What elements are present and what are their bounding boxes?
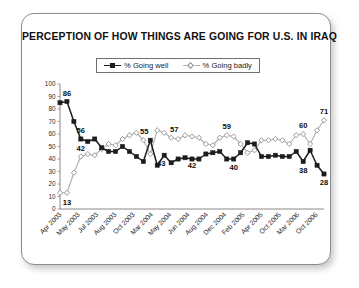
y-tick-label: 100	[45, 80, 56, 87]
data-point	[224, 133, 229, 138]
data-point-label: 57	[170, 125, 178, 134]
y-tick-label: 20	[48, 180, 56, 187]
plot-area: 0102030405060708090100 86565543424038281…	[22, 14, 332, 266]
y-tick-label: 60	[48, 130, 56, 137]
y-tick-label: 90	[48, 93, 56, 100]
data-point	[148, 138, 152, 142]
data-point	[169, 161, 173, 165]
data-point	[280, 154, 284, 158]
data-point-label: 28	[320, 178, 328, 187]
data-point	[107, 149, 111, 153]
y-tick-label: 30	[48, 168, 56, 175]
data-point	[259, 154, 263, 158]
x-tick-labels: Apr 2003May 2003Jul 2003Aug 2003Oct 2003…	[38, 211, 319, 238]
data-point	[72, 119, 76, 123]
data-point	[176, 136, 181, 141]
data-point	[85, 151, 90, 156]
data-point	[225, 157, 229, 161]
data-point-label: 71	[320, 107, 329, 116]
data-point	[211, 151, 215, 155]
data-point-label: 13	[63, 198, 71, 207]
chart-card: PERCEPTION OF HOW THINGS ARE GOING FOR U…	[21, 13, 331, 265]
data-point	[239, 151, 243, 155]
data-point	[308, 148, 312, 152]
data-point	[273, 153, 277, 157]
y-tick-label: 50	[48, 143, 56, 150]
data-point-label: 59	[223, 122, 231, 131]
data-point	[93, 137, 97, 141]
line-chart-svg: 0102030405060708090100 86565543424038281…	[22, 14, 332, 266]
data-point	[266, 154, 270, 158]
data-point	[100, 146, 104, 150]
data-point	[294, 149, 298, 153]
chart-page: PERCEPTION OF HOW THINGS ARE GOING FOR U…	[0, 0, 359, 288]
data-point	[57, 190, 62, 195]
data-point-label: 55	[140, 127, 149, 136]
data-point	[64, 190, 69, 195]
data-point	[252, 142, 256, 146]
data-point	[273, 136, 278, 141]
data-point	[78, 154, 83, 159]
data-point	[86, 139, 90, 143]
data-point	[189, 134, 194, 139]
data-point	[176, 157, 180, 161]
data-point	[280, 138, 285, 143]
y-tick-label: 40	[48, 155, 56, 162]
data-point-label: 42	[77, 144, 85, 153]
data-point	[155, 128, 160, 133]
y-tick-label: 70	[48, 118, 56, 125]
data-point-label: 43	[157, 159, 165, 168]
data-point-label: 86	[63, 89, 71, 98]
data-point	[301, 159, 305, 163]
data-point	[162, 153, 166, 157]
data-point-label: 40	[229, 163, 237, 172]
y-tick-label: 80	[48, 105, 56, 112]
data-point	[141, 159, 145, 163]
data-point-label: 60	[299, 121, 307, 130]
data-point	[315, 163, 319, 167]
data-point	[204, 152, 208, 156]
y-tick-label: 10	[48, 193, 56, 200]
data-point	[287, 154, 291, 158]
y-tick-label: 0	[52, 205, 56, 212]
data-point	[79, 137, 83, 141]
data-point	[322, 172, 326, 176]
data-point	[65, 99, 69, 103]
data-point	[183, 156, 187, 160]
data-point	[245, 141, 249, 145]
data-point	[127, 149, 131, 153]
data-point-label: 38	[299, 166, 307, 175]
data-point	[218, 149, 222, 153]
data-point	[182, 133, 187, 138]
data-point	[134, 154, 138, 158]
data-point	[197, 157, 201, 161]
data-point	[266, 138, 271, 143]
data-point	[113, 149, 117, 153]
data-point	[120, 144, 124, 148]
data-point-label: 56	[77, 126, 85, 135]
data-point	[58, 101, 62, 105]
data-point	[71, 170, 76, 175]
data-point	[127, 133, 132, 138]
data-point	[148, 151, 153, 156]
data-point-label: 42	[188, 161, 196, 170]
data-point	[232, 157, 236, 161]
